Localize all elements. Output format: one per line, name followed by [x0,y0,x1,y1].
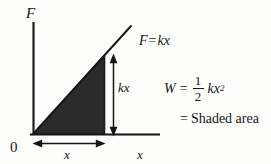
vertical-axis-label-f: F [26,6,35,21]
line-equation-lhs: F [139,33,148,48]
work-formula: W = 1 2 kx2 [164,74,225,104]
shaded-area-statement: =Shaded area [180,112,259,126]
fraction-denominator: 2 [193,90,204,103]
span-label-x: x [64,148,70,161]
diagram-canvas [0,0,271,164]
height-label-kx: kx [118,81,130,94]
kx-exponent: 2 [220,84,225,93]
fraction-numerator: 1 [193,74,204,87]
work-equals-sign: = [176,82,191,96]
work-symbol: W [164,82,176,96]
origin-label: 0 [10,140,18,155]
one-half-fraction: 1 2 [193,74,204,104]
horizontal-axis-label-x: x [137,148,143,161]
line-equation-rhs: kx [157,33,169,48]
height-measure-arrow-kx [110,54,118,137]
shaded-area-text: Shaded area [191,111,259,126]
physics-diagram-spring-work: F 0 F=kx kx x x W = 1 2 kx2 =Shaded area [0,0,271,164]
shaded-equals-sign: = [180,111,191,126]
kx-term: kx [208,82,220,96]
line-equation-equals: = [148,33,158,48]
line-equation-label: F=kx [139,34,170,48]
